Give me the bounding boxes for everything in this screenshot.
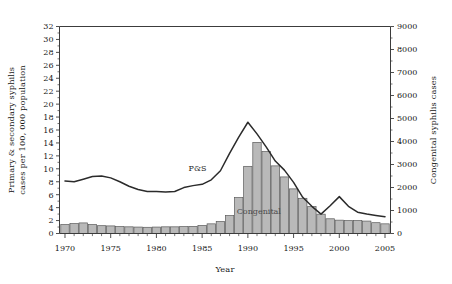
- bar-1992: [262, 152, 270, 234]
- bar-1972: [79, 223, 87, 234]
- y2-tick-label-1000: 1000: [397, 206, 417, 215]
- y-tick-label-16: 16: [43, 126, 53, 135]
- bar-1984: [189, 226, 197, 233]
- chart-canvas: 0246810121416182022242628303201000200030…: [0, 0, 452, 284]
- x-tick-label-1975: 1975: [101, 244, 121, 253]
- plot-frame: [60, 27, 391, 234]
- y-tick-label-20: 20: [43, 100, 53, 109]
- bar-1994: [280, 177, 288, 234]
- y2-tick-label-3000: 3000: [397, 160, 417, 169]
- bar-series-congenital: [61, 142, 389, 233]
- bar-1986: [207, 224, 215, 234]
- y-axis-title-line1: Primary & secondary syphilis: [6, 67, 16, 193]
- bar-2003: [363, 221, 371, 233]
- y-axis-title-line2: cases per 100, 000 population: [17, 65, 27, 195]
- bar-1995: [289, 189, 297, 234]
- bar-1997: [308, 207, 316, 234]
- bar-1975: [107, 226, 115, 234]
- x-axis: 19701975198019851990199520002005: [55, 234, 395, 253]
- y-tick-label-8: 8: [48, 178, 53, 187]
- x-tick-label-2005: 2005: [375, 244, 395, 253]
- bar-2001: [344, 221, 352, 234]
- x-tick-label-1980: 1980: [146, 244, 166, 253]
- bar-2002: [353, 221, 361, 234]
- x-tick-label-1985: 1985: [192, 244, 212, 253]
- y-tick-label-0: 0: [48, 229, 53, 238]
- bar-1981: [161, 227, 169, 234]
- bar-1991: [253, 142, 261, 233]
- y-tick-label-2: 2: [48, 216, 53, 225]
- y2-tick-label-6000: 6000: [397, 91, 417, 100]
- y-tick-label-4: 4: [48, 204, 53, 213]
- y-tick-label-22: 22: [43, 87, 53, 96]
- y-tick-label-24: 24: [43, 74, 53, 83]
- y-tick-label-14: 14: [43, 139, 53, 148]
- bar-1980: [152, 227, 160, 233]
- bar-1988: [225, 216, 233, 234]
- bar-2004: [372, 223, 380, 234]
- x-tick-label-1995: 1995: [283, 244, 303, 253]
- y-axis-right: 0100020003000400050006000700080009000: [391, 22, 418, 238]
- bar-1983: [180, 227, 188, 234]
- bar-1993: [271, 166, 279, 234]
- bar-1998: [317, 214, 325, 233]
- bar-1973: [88, 225, 96, 234]
- syphilis-chart-figure: 0246810121416182022242628303201000200030…: [0, 0, 452, 284]
- y-tick-label-32: 32: [43, 22, 53, 31]
- x-tick-label-1970: 1970: [55, 244, 75, 253]
- y2-tick-label-9000: 9000: [397, 22, 417, 31]
- y2-tick-label-2000: 2000: [397, 183, 417, 192]
- bar-1987: [216, 222, 224, 234]
- bar-1979: [143, 227, 151, 233]
- y-tick-label-26: 26: [43, 61, 53, 70]
- y-tick-label-30: 30: [43, 35, 53, 44]
- x-tick-label-2000: 2000: [329, 244, 349, 253]
- series-annotation-p-s: P&S: [189, 164, 207, 173]
- y-tick-label-6: 6: [48, 191, 53, 200]
- bar-1996: [299, 198, 307, 233]
- bar-1977: [125, 227, 133, 234]
- y2-tick-label-8000: 8000: [397, 45, 417, 54]
- x-tick-label-1990: 1990: [238, 244, 258, 253]
- y-tick-label-12: 12: [43, 152, 53, 161]
- y-tick-label-18: 18: [43, 113, 53, 122]
- y2-tick-label-5000: 5000: [397, 114, 417, 123]
- bar-2005: [381, 224, 389, 234]
- bar-1974: [97, 226, 105, 234]
- bar-1985: [198, 225, 206, 233]
- bar-1990: [244, 166, 252, 233]
- bar-1970: [61, 225, 69, 234]
- bar-1999: [326, 219, 334, 234]
- y2-tick-label-7000: 7000: [397, 68, 417, 77]
- line-series-ps: [65, 122, 385, 216]
- bar-1978: [134, 227, 142, 233]
- y2-tick-label-4000: 4000: [397, 137, 417, 146]
- series-annotation-congenital: Congenital: [237, 207, 282, 216]
- bar-1976: [116, 227, 124, 234]
- x-axis-title: Year: [215, 264, 235, 274]
- bar-2000: [335, 220, 343, 233]
- y-tick-label-10: 10: [43, 165, 53, 174]
- y-tick-label-28: 28: [43, 48, 53, 57]
- y2-tick-label-0: 0: [397, 229, 402, 238]
- bar-1971: [70, 224, 78, 234]
- y-axis-left: 02468101214161820222426283032: [43, 22, 59, 238]
- y2-axis-title: Congenital syphilis cases: [428, 76, 438, 184]
- bar-1982: [171, 227, 179, 234]
